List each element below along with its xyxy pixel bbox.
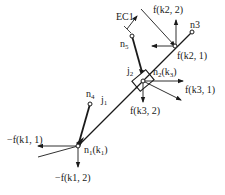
ec1-extension-left [124, 26, 131, 33]
reaction-arrow-k1 [38, 146, 78, 157]
reaction-arrow-k3 [143, 81, 181, 100]
label-n1-k1: n1(k1) [84, 144, 108, 157]
label-j2: j2 [126, 65, 134, 78]
label-n4: n4 [86, 88, 95, 101]
diagram-svg: EC1 f(k2, 2) n3 n5 f(k2, 1) j2 n2(k3) f(… [0, 0, 225, 195]
node-n1 [76, 144, 80, 148]
label-f-k3-2: f(k3, 2) [130, 105, 160, 117]
label-f-k3-1: f(k3, 1) [185, 84, 215, 96]
node-k2 [173, 44, 177, 48]
mechanism-diagram: EC1 f(k2, 2) n3 n5 f(k2, 1) j2 n2(k3) f(… [0, 0, 225, 195]
label-neg-f-k1-1: −f(k1, 1) [7, 134, 43, 146]
label-n5: n5 [120, 38, 129, 51]
label-neg-f-k1-2: −f(k1, 2) [55, 172, 91, 184]
node-n5 [130, 34, 134, 38]
link-n5-j2 [132, 36, 142, 72]
label-f-k2-2: f(k2, 2) [153, 4, 183, 16]
label-n2-k3: n2(k3) [153, 66, 177, 79]
label-ec1: EC1 [116, 11, 134, 22]
node-n3 [190, 30, 194, 34]
node-n4 [88, 102, 92, 106]
label-n3: n3 [190, 19, 200, 30]
node-n2 [141, 79, 145, 83]
label-f-k2-1: f(k2, 1) [177, 50, 207, 62]
label-j1: j1 [100, 94, 108, 107]
